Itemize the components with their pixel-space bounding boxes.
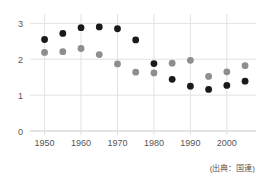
x-axis-tick-label: 1990 (180, 138, 200, 148)
data-point-dark-series (78, 24, 85, 31)
data-point-gray-series (96, 51, 103, 58)
data-point-gray-series (132, 69, 139, 76)
source-annotation: (出典：国連) (210, 162, 255, 173)
y-axis-tick-label: 3 (18, 19, 23, 29)
x-axis-tick-label: 2000 (217, 138, 237, 148)
data-point-dark-series (132, 36, 139, 43)
data-point-dark-series (205, 86, 212, 93)
data-point-gray-series (187, 57, 194, 64)
data-point-dark-series (223, 82, 230, 89)
data-point-dark-series (151, 60, 158, 67)
data-point-dark-series (114, 25, 121, 32)
data-point-dark-series (59, 30, 66, 37)
data-point-dark-series (96, 24, 103, 31)
data-point-gray-series (59, 48, 66, 55)
plot-area: 0123195019601970198019902000 (0, 0, 263, 177)
data-point-dark-series (242, 78, 249, 85)
y-axis-tick-label: 2 (18, 55, 23, 65)
data-point-dark-series (41, 36, 48, 43)
data-point-gray-series (205, 73, 212, 80)
data-point-gray-series (151, 69, 158, 76)
data-point-dark-series (187, 83, 194, 90)
data-point-dark-series (169, 76, 176, 83)
data-point-gray-series (78, 45, 85, 52)
data-point-gray-series (242, 62, 249, 69)
data-point-gray-series (223, 68, 230, 75)
data-point-gray-series (169, 60, 176, 67)
y-axis-tick-label: 1 (18, 91, 23, 101)
x-axis-tick-label: 1980 (144, 138, 164, 148)
scatter-chart: 0123195019601970198019902000 (出典：国連) (0, 0, 263, 177)
x-axis-tick-label: 1950 (35, 138, 55, 148)
data-point-gray-series (114, 61, 121, 68)
data-point-gray-series (41, 49, 48, 56)
x-axis-tick-label: 1970 (107, 138, 127, 148)
x-axis-tick-label: 1960 (71, 138, 91, 148)
y-axis-tick-label: 0 (18, 127, 23, 137)
